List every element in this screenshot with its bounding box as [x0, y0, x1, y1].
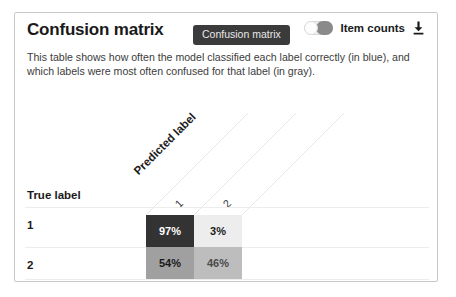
confusion-matrix-card: Confusion matrix Confusion matrix Item c…: [14, 12, 438, 282]
confusion-matrix-table: Predicted label 1 2 True label 1 2 97% 3…: [15, 13, 437, 281]
row-header-1: 1: [27, 219, 33, 231]
row-header-2: 2: [27, 259, 33, 271]
predicted-label-axis: Predicted label: [132, 111, 198, 177]
true-label-axis: True label: [27, 189, 81, 201]
matrix-cell[interactable]: 54%: [146, 247, 194, 279]
row-separator: [25, 207, 429, 208]
row-separator: [25, 279, 429, 280]
column-header-1: 1: [173, 197, 186, 210]
matrix-cell[interactable]: 3%: [194, 215, 242, 247]
matrix-cell[interactable]: 97%: [146, 215, 194, 247]
page-root: Confusion matrix Confusion matrix Item c…: [0, 0, 456, 297]
matrix-cell[interactable]: 46%: [194, 247, 242, 279]
column-header-2: 2: [221, 197, 234, 210]
